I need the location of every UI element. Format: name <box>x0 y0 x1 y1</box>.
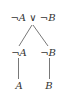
edge-root-left <box>19 25 32 46</box>
edge-root-right <box>33 25 48 46</box>
tableau-tree: ¬A ∨ ¬B ¬A ¬B A B <box>0 0 65 109</box>
right-leaf-node: B <box>45 81 52 91</box>
root-node: ¬A ∨ ¬B <box>10 13 55 23</box>
right-mid-node: ¬B <box>40 48 56 58</box>
left-leaf-node: A <box>15 81 22 91</box>
left-mid-node: ¬A <box>11 48 27 58</box>
